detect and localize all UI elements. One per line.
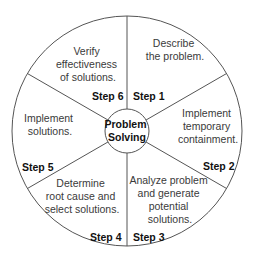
center-line-2: Solving	[108, 131, 146, 143]
text-line: potential	[149, 200, 189, 212]
text-line: effectiveness	[56, 58, 117, 70]
step-4-label: Step 4	[90, 231, 122, 243]
text-line: temporary	[183, 120, 231, 132]
step-6-description: Verify effectiveness of solutions.	[56, 45, 120, 83]
step-1-description: Describe the problem.	[146, 37, 204, 62]
step-2-label: Step 2	[203, 160, 235, 172]
step-2-description: Implement temporary containment.	[178, 107, 238, 145]
center-label: Problem Solving	[105, 118, 150, 143]
text-line: Describe	[153, 37, 195, 49]
text-line: root cause and	[46, 190, 116, 202]
step-3-description: Analyze problem and generate potential s…	[129, 174, 210, 225]
step-5-label: Step 5	[22, 161, 54, 173]
step-3-label: Step 3	[133, 231, 165, 243]
text-line: Verify	[73, 45, 100, 57]
text-line: containment.	[178, 133, 238, 145]
text-line: the problem.	[146, 50, 204, 62]
text-line: Implement	[24, 112, 73, 124]
text-line: and generate	[138, 187, 200, 199]
text-line: solutions.	[148, 213, 192, 225]
text-line: of solutions.	[60, 71, 116, 83]
problem-solving-wheel: Problem Solving Describe the problem. St…	[0, 0, 253, 262]
step-6-label: Step 6	[92, 90, 124, 102]
text-line: Implement	[182, 107, 231, 119]
center-line-1: Problem	[105, 118, 147, 130]
text-line: Determine	[56, 177, 105, 189]
text-line: Analyze problem	[129, 174, 207, 186]
step-4-description: Determine root cause and select solution…	[45, 177, 120, 215]
step-1-label: Step 1	[133, 90, 165, 102]
text-line: solutions.	[28, 125, 72, 137]
text-line: select solutions.	[45, 203, 120, 215]
step-5-description: Implement solutions.	[24, 112, 76, 137]
